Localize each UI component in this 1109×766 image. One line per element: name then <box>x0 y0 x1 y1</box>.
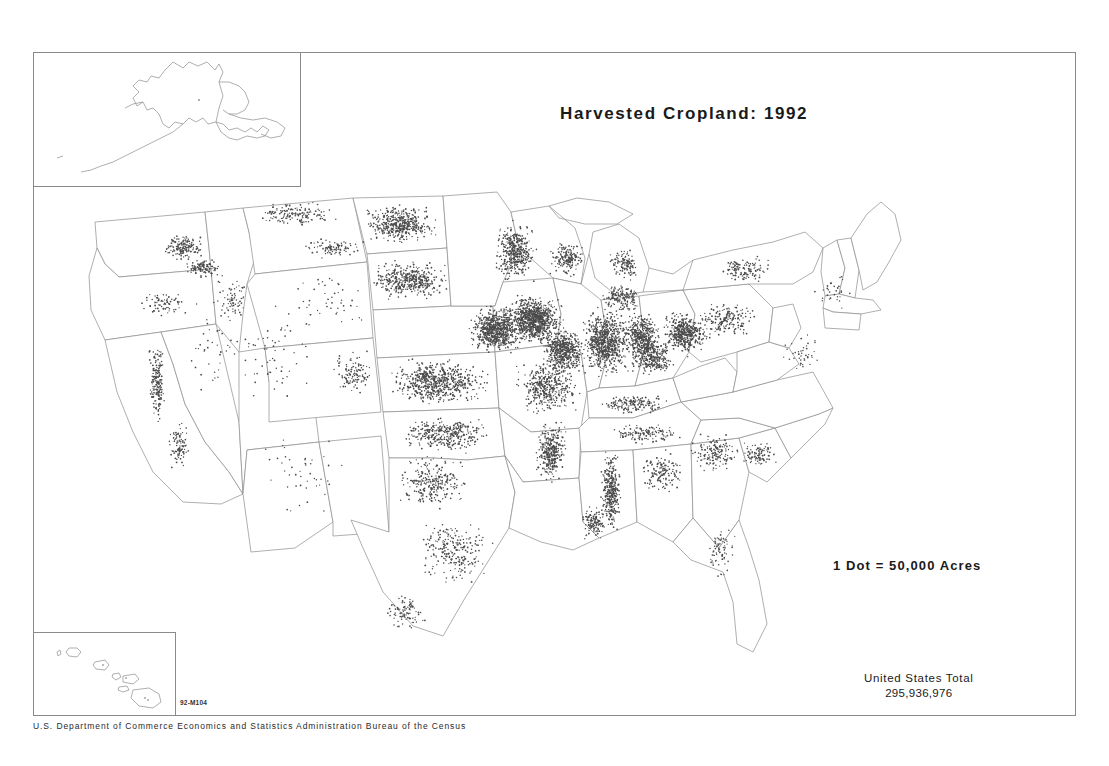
us-total-value: 295,936,976 <box>864 686 974 701</box>
map-poster: Harvested Cropland: 1992 1 Dot = 50,000 … <box>0 0 1109 766</box>
agency-footer: U.S. Department of Commerce Economics an… <box>33 721 466 731</box>
us-total-block: United States Total 295,936,976 <box>864 671 974 701</box>
us-total-label: United States Total <box>864 671 974 686</box>
state-boundaries <box>89 192 901 652</box>
page-title: Harvested Cropland: 1992 <box>560 104 808 124</box>
map-code-label: 92-M104 <box>180 699 207 706</box>
dot-legend: 1 Dot = 50,000 Acres <box>833 558 981 573</box>
alaska-inset-map <box>33 52 301 187</box>
hawaii-inset-map <box>33 632 176 716</box>
